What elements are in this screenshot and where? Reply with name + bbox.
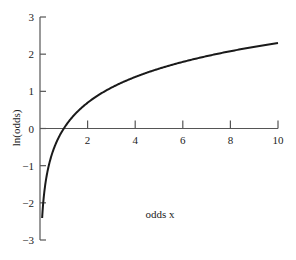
y-tick-label: 0	[29, 123, 35, 135]
ln-odds-curve	[42, 43, 278, 218]
chart: −3−2−10123 246810 odds x ln(odds)	[0, 0, 296, 260]
x-tick-label: 2	[85, 134, 91, 146]
y-tick-label: 1	[29, 85, 35, 97]
y-axis-label: ln(odds)	[10, 109, 23, 146]
y-tick-label: 2	[29, 48, 35, 60]
x-tick-label: 10	[273, 134, 285, 146]
x-tick-label: 4	[132, 134, 138, 146]
x-axis: 246810	[40, 121, 284, 146]
y-tick-label: −1	[22, 160, 34, 172]
y-tick-label: 3	[29, 11, 35, 23]
y-tick-label: −3	[22, 234, 34, 246]
x-axis-label: odds x	[145, 208, 175, 220]
x-tick-label: 8	[228, 134, 234, 146]
x-tick-label: 6	[180, 134, 186, 146]
y-tick-label: −2	[22, 197, 34, 209]
